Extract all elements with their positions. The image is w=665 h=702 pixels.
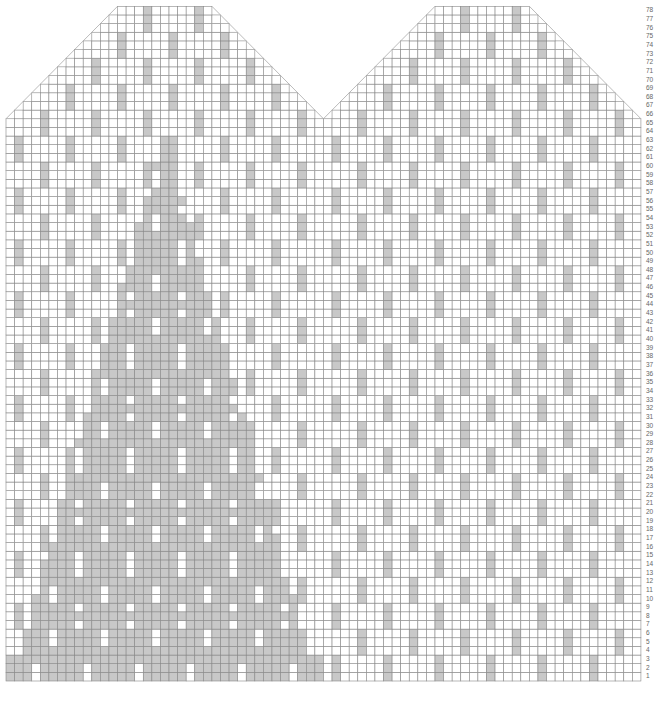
- chart-cell: [126, 162, 135, 171]
- chart-cell: [118, 231, 127, 240]
- chart-cell: [212, 266, 221, 275]
- chart-cell: [495, 525, 504, 534]
- chart-cell: [23, 274, 32, 283]
- chart-cell: [323, 655, 332, 664]
- chart-cell: [118, 153, 127, 162]
- chart-cell: [435, 67, 444, 76]
- chart-cell: [57, 344, 66, 353]
- chart-cell: [452, 6, 461, 15]
- chart-cell: [349, 499, 358, 508]
- chart-cell: [409, 577, 418, 586]
- chart-cell: [263, 413, 272, 422]
- chart-cell: [392, 119, 401, 128]
- chart-cell: [504, 266, 513, 275]
- chart-cell: [384, 197, 393, 206]
- chart-cell: [40, 197, 49, 206]
- chart-cell: [521, 197, 530, 206]
- chart-cell: [315, 612, 324, 621]
- chart-cell: [315, 620, 324, 629]
- chart-cell: [426, 638, 435, 647]
- chart-cell: [358, 171, 367, 180]
- chart-cell: [160, 595, 169, 604]
- chart-cell: [538, 119, 547, 128]
- chart-cell: [375, 396, 384, 405]
- chart-cell: [418, 361, 427, 370]
- chart-cell: [401, 257, 410, 266]
- chart-cell: [589, 274, 598, 283]
- chart-cell: [349, 672, 358, 681]
- chart-cell: [83, 646, 92, 655]
- chart-cell: [418, 318, 427, 327]
- chart-cell: [572, 335, 581, 344]
- chart-cell: [135, 396, 144, 405]
- chart-cell: [126, 413, 135, 422]
- chart-cell: [418, 145, 427, 154]
- chart-cell: [375, 439, 384, 448]
- chart-cell: [49, 629, 58, 638]
- chart-cell: [135, 188, 144, 197]
- chart-cell: [349, 430, 358, 439]
- chart-cell: [263, 655, 272, 664]
- chart-cell: [538, 672, 547, 681]
- chart-cell: [495, 612, 504, 621]
- chart-cell: [529, 41, 538, 50]
- chart-cell: [323, 309, 332, 318]
- chart-cell: [118, 620, 127, 629]
- chart-cell: [349, 145, 358, 154]
- chart-cell: [75, 249, 84, 258]
- chart-cell: [521, 50, 530, 59]
- chart-cell: [375, 404, 384, 413]
- chart-cell: [160, 439, 169, 448]
- chart-cell: [186, 465, 195, 474]
- chart-cell: [581, 456, 590, 465]
- chart-cell: [152, 456, 161, 465]
- chart-cell: [272, 508, 281, 517]
- chart-cell: [461, 595, 470, 604]
- chart-cell: [581, 119, 590, 128]
- chart-cell: [66, 422, 75, 431]
- chart-cell: [306, 672, 315, 681]
- chart-cell: [478, 223, 487, 232]
- chart-cell: [486, 266, 495, 275]
- chart-cell: [504, 499, 513, 508]
- chart-cell: [306, 508, 315, 517]
- chart-cell: [83, 58, 92, 67]
- chart-cell: [238, 508, 247, 517]
- chart-cell: [100, 84, 109, 93]
- chart-cell: [512, 84, 521, 93]
- chart-cell: [547, 603, 556, 612]
- chart-cell: [143, 612, 152, 621]
- chart-cell: [92, 309, 101, 318]
- chart-cell: [246, 447, 255, 456]
- chart-cell: [478, 205, 487, 214]
- chart-cell: [57, 595, 66, 604]
- chart-cell: [384, 430, 393, 439]
- chart-cell: [495, 67, 504, 76]
- chart-cell: [547, 534, 556, 543]
- chart-cell: [555, 499, 564, 508]
- chart-cell: [323, 344, 332, 353]
- chart-cell: [109, 491, 118, 500]
- chart-cell: [375, 646, 384, 655]
- chart-cell: [221, 127, 230, 136]
- chart-cell: [572, 482, 581, 491]
- chart-cell: [306, 595, 315, 604]
- chart-cell: [92, 188, 101, 197]
- chart-cell: [469, 101, 478, 110]
- chart-cell: [238, 136, 247, 145]
- chart-cell: [246, 136, 255, 145]
- chart-cell: [538, 361, 547, 370]
- chart-cell: [118, 430, 127, 439]
- chart-cell: [221, 205, 230, 214]
- chart-cell: [426, 664, 435, 673]
- chart-cell: [109, 620, 118, 629]
- chart-cell: [315, 205, 324, 214]
- chart-cell: [555, 274, 564, 283]
- chart-cell: [246, 292, 255, 301]
- chart-cell: [358, 439, 367, 448]
- chart-cell: [461, 646, 470, 655]
- chart-cell: [57, 292, 66, 301]
- chart-cell: [384, 534, 393, 543]
- chart-cell: [323, 595, 332, 604]
- chart-cell: [495, 231, 504, 240]
